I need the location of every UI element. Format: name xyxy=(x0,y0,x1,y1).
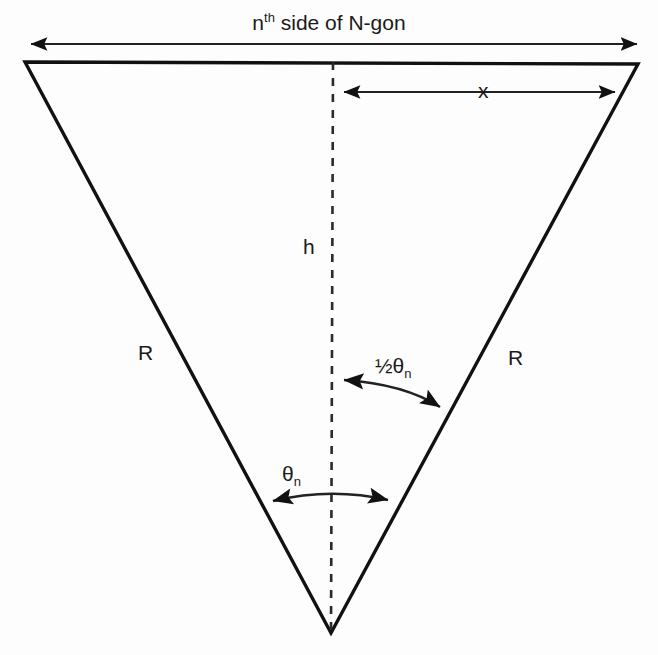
theta-glyph: θ xyxy=(393,354,405,377)
half-theta-arc xyxy=(344,380,440,407)
title-rest: side of N-gon xyxy=(275,11,406,34)
title-superscript: th xyxy=(264,10,275,25)
altitude-dashed-line xyxy=(331,62,333,633)
theta-label: θn xyxy=(282,463,301,484)
diagram-title: nth side of N-gon xyxy=(0,12,658,33)
theta-subscript: n xyxy=(294,474,301,489)
theta-glyph: θ xyxy=(282,462,294,485)
x-label: x xyxy=(478,80,489,101)
theta-subscript: n xyxy=(404,366,411,381)
r-left-label: R xyxy=(138,342,153,363)
r-right-label: R xyxy=(508,347,523,368)
half-fraction: ½ xyxy=(375,354,393,377)
half-theta-label: ½θn xyxy=(375,355,411,376)
h-label: h xyxy=(303,236,315,257)
diagram-canvas xyxy=(0,0,658,655)
geometry-diagram: nth side of N-gon x h R R ½θn θn xyxy=(0,0,658,655)
title-prefix: n xyxy=(252,11,264,34)
